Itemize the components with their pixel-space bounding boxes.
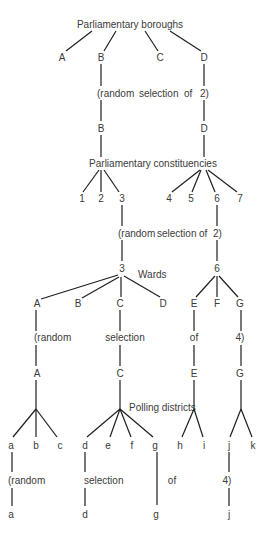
level-label-polling-districts: Polling districts	[129, 402, 196, 413]
polling-node-j: j	[227, 440, 230, 451]
edge	[194, 409, 203, 437]
ward-node-c: C	[116, 298, 123, 309]
selection-text-of: of	[168, 475, 177, 486]
polling-node-c: c	[58, 440, 63, 451]
selection-text-open: (random	[34, 332, 71, 343]
edge	[241, 409, 252, 437]
selection-text-selection: selection	[84, 475, 123, 486]
selected-ward-e: E	[191, 368, 198, 379]
selection-text-selection: selection	[157, 228, 196, 239]
constituency-node-7: 7	[237, 193, 243, 204]
edge	[196, 276, 215, 297]
selected-polling-j: j	[227, 509, 230, 520]
selected-ward-g: G	[236, 368, 244, 379]
edge	[41, 275, 118, 299]
ward-node-d: D	[159, 298, 166, 309]
borough-node-d: D	[200, 52, 207, 63]
constituency-node-3: 3	[119, 193, 125, 204]
borough-node-c: C	[156, 52, 163, 63]
ward-node-g: G	[236, 298, 244, 309]
constituency-node-1: 1	[79, 193, 85, 204]
selection-text-selection: selection	[139, 88, 178, 99]
selection-text-open: (random	[97, 88, 134, 99]
ward-node-f: F	[214, 298, 220, 309]
edge	[104, 31, 116, 51]
edge	[170, 31, 201, 51]
polling-node-b: b	[33, 440, 39, 451]
selection-text-count: 4)	[236, 332, 245, 343]
constituency-node-5: 5	[188, 193, 194, 204]
edge	[104, 170, 119, 192]
level-label-boroughs: Parliamentary boroughs	[77, 19, 183, 30]
edge	[36, 409, 57, 437]
borough-node-a: A	[59, 52, 66, 63]
selected-borough-b: B	[98, 123, 105, 134]
constituency-node-2: 2	[98, 193, 104, 204]
polling-node-e: e	[105, 440, 111, 451]
edge	[172, 170, 200, 192]
selection-text-open: (random	[8, 475, 45, 486]
polling-node-h: h	[177, 440, 183, 451]
selection-text-open: (random	[118, 228, 155, 239]
selected-constituency-6: 6	[214, 263, 220, 274]
ward-node-e: E	[191, 298, 198, 309]
selected-borough-d: D	[200, 123, 207, 134]
edge	[145, 31, 158, 51]
selected-constituency-3: 3	[119, 263, 125, 274]
level-label-wards: Wards	[138, 269, 167, 280]
selection-text-selection: selection	[105, 332, 144, 343]
polling-node-i: i	[203, 440, 205, 451]
constituency-node-4: 4	[166, 193, 172, 204]
edge	[230, 409, 241, 437]
edge	[182, 409, 194, 437]
selected-polling-g: g	[153, 509, 159, 520]
level-label-constituencies: Parliamentary constituencies	[89, 158, 217, 169]
polling-node-k: k	[251, 440, 257, 451]
edge	[208, 170, 237, 192]
selected-ward-c: C	[116, 368, 123, 379]
selection-text-count: 4)	[223, 475, 232, 486]
selection-text-count: 2)	[213, 228, 222, 239]
polling-node-d: d	[82, 440, 88, 451]
selected-polling-a: a	[8, 509, 14, 520]
edge	[66, 31, 92, 51]
ward-node-a: A	[34, 298, 41, 309]
selection-text-of: of	[199, 228, 208, 239]
edge	[83, 170, 99, 192]
selection-text-count: 2)	[200, 88, 209, 99]
polling-node-f: f	[131, 440, 134, 451]
sampling-tree-diagram: Parliamentary boroughs A B C D (random s…	[0, 0, 268, 536]
selection-text-of: of	[190, 332, 199, 343]
polling-node-a: a	[8, 440, 14, 451]
borough-node-b: B	[98, 52, 105, 63]
constituency-node-6: 6	[214, 193, 220, 204]
selection-text-of: of	[184, 88, 193, 99]
ward-node-b: B	[75, 298, 82, 309]
edge	[219, 276, 238, 297]
selected-ward-a: A	[34, 368, 41, 379]
selected-polling-d: d	[82, 509, 88, 520]
polling-node-g: g	[152, 440, 158, 451]
edge	[206, 170, 215, 192]
edge	[13, 409, 36, 437]
